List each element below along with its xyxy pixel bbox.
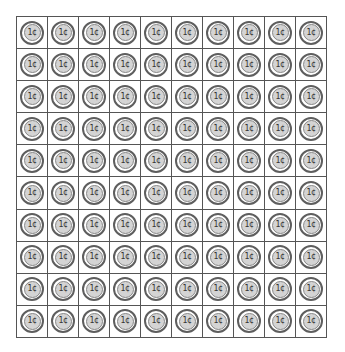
grid-cell: 1¢ (79, 177, 110, 209)
penny-coin-icon: 1¢ (175, 149, 199, 173)
coin-label: 1¢ (303, 313, 320, 330)
grid-cell: 1¢ (234, 49, 265, 81)
grid-cell: 1¢ (234, 177, 265, 209)
grid-cell: 1¢ (17, 210, 48, 242)
coin-label: 1¢ (117, 313, 134, 330)
coin-label: 1¢ (210, 152, 227, 169)
grid-cell: 1¢ (203, 81, 234, 113)
coin-label: 1¢ (272, 152, 289, 169)
coin-label: 1¢ (148, 152, 165, 169)
grid-cell: 1¢ (79, 274, 110, 306)
coin-label: 1¢ (303, 56, 320, 73)
penny-coin-icon: 1¢ (82, 277, 106, 301)
penny-coin-icon: 1¢ (237, 117, 261, 141)
grid-cell: 1¢ (48, 306, 79, 338)
grid-cell: 1¢ (48, 210, 79, 242)
penny-coin-icon: 1¢ (175, 277, 199, 301)
penny-coin-icon: 1¢ (237, 309, 261, 333)
grid-cell: 1¢ (265, 17, 296, 49)
coin-label: 1¢ (24, 24, 41, 41)
coin-label: 1¢ (179, 152, 196, 169)
coin-label: 1¢ (241, 120, 258, 137)
coin-label: 1¢ (55, 88, 72, 105)
penny-coin-icon: 1¢ (206, 85, 230, 109)
coin-label: 1¢ (241, 56, 258, 73)
grid-cell: 1¢ (203, 242, 234, 274)
coin-label: 1¢ (86, 120, 103, 137)
coin-label: 1¢ (24, 217, 41, 234)
coin-label: 1¢ (86, 217, 103, 234)
grid-cell: 1¢ (172, 113, 203, 145)
penny-coin-icon: 1¢ (299, 309, 323, 333)
grid-cell: 1¢ (141, 113, 172, 145)
coin-label: 1¢ (148, 217, 165, 234)
grid-cell: 1¢ (17, 306, 48, 338)
coin-label: 1¢ (241, 152, 258, 169)
penny-coin-icon: 1¢ (268, 149, 292, 173)
penny-coin-icon: 1¢ (206, 181, 230, 205)
coin-label: 1¢ (55, 249, 72, 266)
grid-cell: 1¢ (141, 17, 172, 49)
coin-label: 1¢ (179, 217, 196, 234)
coin-label: 1¢ (55, 217, 72, 234)
grid-cell: 1¢ (17, 177, 48, 209)
penny-coin-icon: 1¢ (206, 149, 230, 173)
penny-coin-icon: 1¢ (82, 21, 106, 45)
grid-cell: 1¢ (265, 274, 296, 306)
penny-coin-icon: 1¢ (299, 21, 323, 45)
penny-coin-icon: 1¢ (237, 21, 261, 45)
grid-cell: 1¢ (48, 145, 79, 177)
grid-cell: 1¢ (265, 81, 296, 113)
coin-label: 1¢ (241, 185, 258, 202)
penny-coin-icon: 1¢ (144, 309, 168, 333)
penny-coin-icon: 1¢ (237, 277, 261, 301)
coin-label: 1¢ (86, 281, 103, 298)
penny-coin-icon: 1¢ (268, 213, 292, 237)
penny-coin-icon: 1¢ (113, 277, 137, 301)
penny-coin-icon: 1¢ (20, 21, 44, 45)
coin-label: 1¢ (24, 249, 41, 266)
grid-cell: 1¢ (141, 81, 172, 113)
coin-label: 1¢ (86, 88, 103, 105)
coin-label: 1¢ (179, 88, 196, 105)
penny-coin-icon: 1¢ (82, 53, 106, 77)
penny-coin-icon: 1¢ (20, 245, 44, 269)
penny-coin-icon: 1¢ (20, 277, 44, 301)
coin-label: 1¢ (272, 281, 289, 298)
grid-cell: 1¢ (110, 306, 141, 338)
grid-cell: 1¢ (17, 274, 48, 306)
coin-label: 1¢ (210, 281, 227, 298)
penny-coin-icon: 1¢ (299, 277, 323, 301)
grid-cell: 1¢ (296, 145, 327, 177)
penny-coin-icon: 1¢ (113, 117, 137, 141)
penny-coin-icon: 1¢ (175, 181, 199, 205)
grid-cell: 1¢ (234, 81, 265, 113)
grid-cell: 1¢ (110, 113, 141, 145)
penny-coin-icon: 1¢ (113, 53, 137, 77)
penny-coin-icon: 1¢ (20, 213, 44, 237)
penny-coin-icon: 1¢ (113, 245, 137, 269)
coin-label: 1¢ (55, 313, 72, 330)
penny-coin-icon: 1¢ (82, 181, 106, 205)
coin-label: 1¢ (55, 24, 72, 41)
penny-coin-icon: 1¢ (268, 21, 292, 45)
coin-label: 1¢ (24, 88, 41, 105)
coin-label: 1¢ (86, 24, 103, 41)
coin-label: 1¢ (24, 281, 41, 298)
coin-label: 1¢ (148, 88, 165, 105)
penny-coin-icon: 1¢ (237, 85, 261, 109)
coin-label: 1¢ (148, 281, 165, 298)
grid-cell: 1¢ (110, 49, 141, 81)
grid-cell: 1¢ (141, 49, 172, 81)
penny-coin-icon: 1¢ (113, 85, 137, 109)
coin-label: 1¢ (241, 249, 258, 266)
grid-cell: 1¢ (110, 274, 141, 306)
grid-cell: 1¢ (296, 177, 327, 209)
coin-label: 1¢ (148, 120, 165, 137)
penny-coin-icon: 1¢ (51, 53, 75, 77)
penny-coin-icon: 1¢ (113, 309, 137, 333)
coin-label: 1¢ (303, 120, 320, 137)
coin-label: 1¢ (117, 185, 134, 202)
penny-coin-icon: 1¢ (20, 53, 44, 77)
coin-label: 1¢ (86, 56, 103, 73)
